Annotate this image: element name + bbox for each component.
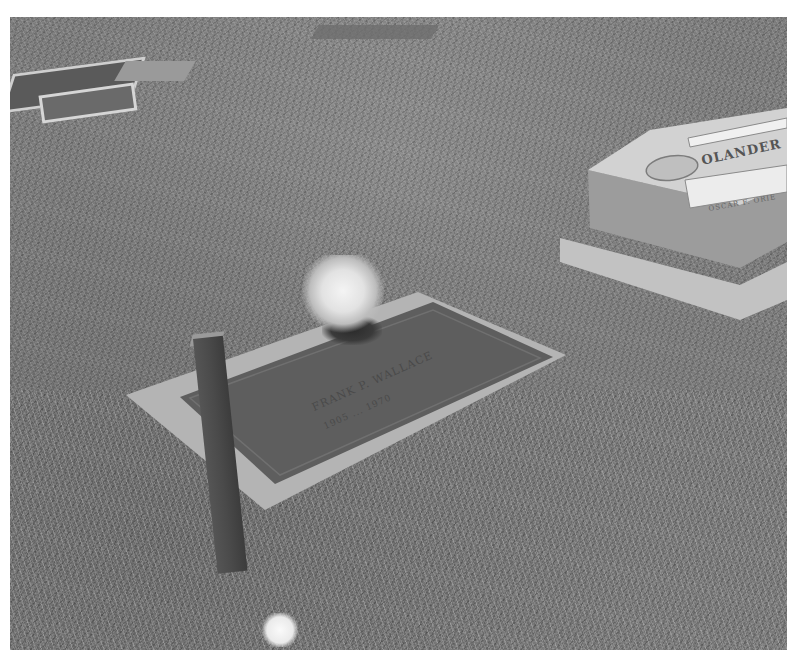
artificial-flowers (302, 255, 384, 335)
scene-shapes (10, 17, 787, 650)
fallen-white-flower (260, 613, 300, 647)
cemetery-photo: FRANK P. WALLACE 1905 ... 1970 OLANDER O… (10, 17, 787, 650)
